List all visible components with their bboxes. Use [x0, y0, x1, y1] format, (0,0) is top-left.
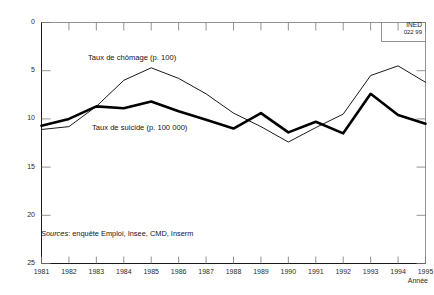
x-axis-title: Année	[408, 277, 428, 284]
x-tick-label: 1981	[28, 268, 56, 275]
x-tick-label: 1987	[192, 268, 220, 275]
x-tick-label: 1995	[412, 268, 434, 275]
series-label-suicide: Taux de suicide (p. 100 000)	[92, 123, 187, 132]
sources-note: Sources: enquête Emploi, Insee, CMD, Ins…	[41, 229, 193, 238]
chart-plot-area	[0, 0, 434, 295]
ined-institute-label: INED	[381, 22, 422, 29]
y-tick-label: 20	[13, 211, 35, 218]
x-tick-label: 1982	[55, 268, 83, 275]
x-tick-label: 1989	[247, 268, 275, 275]
ined-credit-box: INED 022 99	[381, 21, 425, 41]
y-tick-label: 0	[13, 18, 35, 25]
x-tick-label: 1992	[329, 268, 357, 275]
x-tick-label: 1994	[384, 268, 412, 275]
sources-text: : enquête Emploi, Insee, CMD, Inserm	[68, 229, 193, 238]
x-tick-label: 1984	[110, 268, 138, 275]
x-axis-bottom-ticks	[42, 257, 426, 264]
x-tick-label: 1983	[82, 268, 110, 275]
x-tick-label: 1991	[302, 268, 330, 275]
x-tick-label: 1993	[357, 268, 385, 275]
y-axis-ticks	[42, 23, 51, 264]
y-tick-label: 5	[13, 66, 35, 73]
y-tick-label: 15	[13, 163, 35, 170]
x-tick-label: 1988	[220, 268, 248, 275]
sources-keyword: Sources	[41, 229, 68, 238]
y-axis-right-ticks	[417, 23, 426, 264]
x-tick-label: 1990	[274, 268, 302, 275]
chart-figure: 2520151050 19811982198319841985198619871…	[0, 0, 434, 295]
x-tick-label: 1986	[165, 268, 193, 275]
ined-code-label: 022 99	[381, 29, 422, 35]
y-tick-label: 25	[13, 259, 35, 266]
x-axis-top-ticks	[69, 23, 426, 31]
x-tick-label: 1985	[137, 268, 165, 275]
y-tick-label: 10	[13, 114, 35, 121]
series-label-chomage: Taux de chômage (p. 100)	[88, 53, 176, 62]
